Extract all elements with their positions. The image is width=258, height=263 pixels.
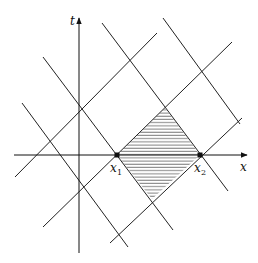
- characteristic-line-negative: [22, 103, 128, 247]
- x-axis-label: x: [240, 160, 247, 174]
- characteristic-lines: [15, 18, 242, 247]
- characteristic-line-negative: [163, 18, 240, 124]
- x1-subscript: 1: [117, 168, 122, 177]
- characteristic-diagram: xt x1x2: [0, 0, 258, 263]
- x2-point: [198, 153, 203, 158]
- x2-label: x: [194, 161, 201, 175]
- x1-label: x: [110, 161, 117, 175]
- hatched-diamond: [117, 108, 200, 199]
- x1-point: [115, 153, 120, 158]
- x2-subscript: 2: [201, 168, 206, 177]
- t-axis-label: t: [70, 14, 75, 28]
- shaded-region: [117, 108, 200, 199]
- axes: xt: [14, 14, 247, 253]
